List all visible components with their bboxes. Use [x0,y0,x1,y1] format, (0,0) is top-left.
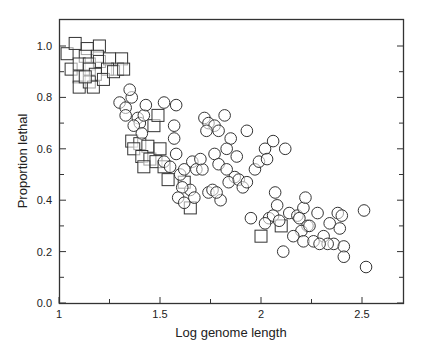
circle-marker [136,128,148,140]
circle-marker [201,125,213,137]
y-tick-label: 0.4 [37,194,52,206]
circle-marker [219,110,231,122]
circle-marker [334,223,346,235]
y-tick-label: 0.8 [37,91,52,103]
y-tick-label: 0.2 [37,246,52,258]
y-axis-title: Proportion lethal [15,114,30,209]
circle-marker [170,99,182,111]
circle-marker [279,143,291,155]
circle-marker [267,135,279,147]
circle-marker [195,153,207,165]
square-marker [138,161,150,173]
square-marker [255,230,267,242]
circle-marker [140,99,152,111]
circle-marker [231,151,243,163]
x-tick-label: 1.5 [152,308,167,320]
y-tick-label: 0.0 [37,297,52,309]
x-tick-label: 1 [56,308,62,320]
square-marker [152,109,164,121]
circle-marker [273,215,285,227]
circle-marker [211,187,223,199]
circle-marker [360,261,372,273]
circle-marker [120,110,132,122]
circle-marker [221,143,233,155]
circle-marker [168,120,180,132]
circle-marker [197,164,209,176]
square-marker [154,143,166,155]
circle-marker [168,133,180,145]
data-points [61,37,372,272]
square-marker [69,37,81,49]
x-tick-label: 2 [258,308,264,320]
circle-marker [300,192,312,204]
x-tick-label: 2.5 [354,308,369,320]
circle-marker [158,97,170,109]
circle-marker [245,212,257,224]
square-marker [162,174,174,186]
circle-marker [124,84,136,96]
x-axis: 11.522.5 [56,297,370,320]
circle-marker [241,125,253,137]
circle-marker [241,176,253,188]
circle-marker [213,125,225,137]
circle-marker [338,251,350,263]
circle-marker [336,210,348,222]
circle-marker [304,220,316,232]
y-tick-label: 0.6 [37,143,52,155]
circle-marker [358,205,370,217]
square-marker [118,63,130,75]
circle-marker [189,192,201,204]
y-tick-label: 1.0 [37,40,52,52]
circle-marker [259,218,271,230]
square-marker [79,71,91,83]
circle-marker [261,153,273,165]
circle-marker [269,187,281,199]
circle-marker [314,238,326,250]
scatter-chart: 0.00.20.40.60.81.0 11.522.5 Log genome l… [0,0,421,353]
circle-marker [138,110,150,122]
circle-marker [170,148,182,160]
circle-marker [277,246,289,258]
circle-marker [164,161,176,173]
x-axis-title: Log genome length [175,325,286,340]
circle-marker [312,207,324,219]
